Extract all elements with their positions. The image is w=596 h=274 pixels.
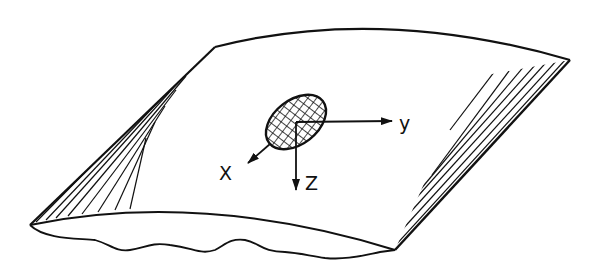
y-axis-label: y <box>399 112 410 134</box>
x-axis-arrow <box>248 144 270 163</box>
y-axis-arrow <box>296 121 392 122</box>
x-axis-label: X <box>219 162 232 184</box>
diagram-canvas: y X Z <box>0 0 596 274</box>
z-axis-label: Z <box>305 172 318 194</box>
right-edge-hatching <box>393 44 565 248</box>
